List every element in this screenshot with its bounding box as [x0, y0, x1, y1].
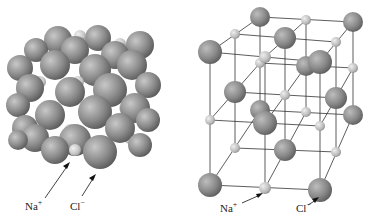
ball-and-stick-nacl-lattice	[190, 0, 378, 218]
cl-ion-label: Cl−	[70, 198, 85, 212]
ion-cluster	[6, 25, 161, 169]
space-filling-model-panel: Na+ Cl−	[0, 0, 190, 218]
na-ion-label: Na+	[25, 198, 42, 212]
ions	[198, 7, 363, 202]
na-ion-label: Na+	[220, 200, 237, 214]
space-filling-nacl-crystal	[0, 0, 190, 218]
arrows	[45, 162, 96, 198]
cl-ion-label: Cl−	[296, 200, 311, 214]
lattice-model-panel: Na+ Cl−	[190, 0, 378, 218]
